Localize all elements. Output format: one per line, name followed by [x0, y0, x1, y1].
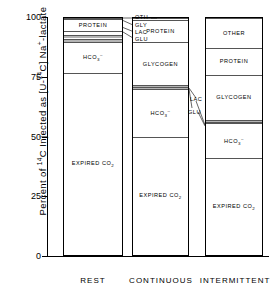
x-axis-line — [47, 256, 269, 257]
segment-rest-bicarbonate: HCO3– — [64, 42, 122, 73]
y-ticklabel-0: 0 — [0, 251, 41, 261]
stacked-bar-chart: Percent of 14C Injected as [U-14C] Na+-l… — [0, 0, 274, 287]
category-label-intermittent: INTERMITTENT — [196, 276, 274, 285]
y-axis-label-sup1: 14 — [36, 157, 43, 165]
bar-continuous[interactable]: EXPIRED CO2 HCO3– GLYCOGEN PROTEIN — [132, 17, 189, 256]
segment-intermittent-glu — [206, 122, 262, 124]
segment-rest-glu — [64, 39, 122, 41]
segment-label: HCO3– — [224, 136, 244, 146]
callout-lac-2: LAC — [190, 96, 202, 102]
segment-label: HCO3– — [151, 108, 171, 118]
segment-intermittent-other: OTHER — [206, 18, 262, 48]
segment-label: OTHER — [223, 30, 245, 37]
segment-label: PROTEIN — [220, 58, 248, 65]
segment-intermittent-expired-co2: EXPIRED CO2 — [206, 158, 262, 255]
segment-rest-other — [64, 18, 122, 19]
segment-rest-expired-co2: EXPIRED CO2 — [64, 73, 122, 255]
segment-rest-glycogen — [64, 31, 122, 35]
segment-label: EXPIRED CO2 — [213, 203, 255, 212]
callout-glu-2: GLU — [188, 109, 201, 115]
segment-label: PROTEIN — [79, 22, 107, 29]
y-axis-label-sup3: + — [36, 41, 43, 45]
segment-label: EXPIRED CO2 — [72, 160, 114, 169]
segment-label: GLYCOGEN — [143, 61, 178, 68]
category-label-rest: REST — [60, 276, 126, 285]
bar-rest[interactable]: EXPIRED CO2 HCO3– PROTEIN — [63, 17, 123, 256]
segment-label: HCO3– — [83, 52, 103, 62]
segment-label: GLYCOGEN — [216, 94, 251, 101]
y-ticklabel-100: 100 — [0, 12, 41, 22]
segment-continuous-expired-co2: EXPIRED CO2 — [133, 137, 188, 256]
y-tick-100 — [42, 17, 48, 18]
segment-intermittent-glycogen: GLYCOGEN — [206, 75, 262, 120]
callout-lac: LAC — [135, 29, 147, 35]
y-tick-0 — [42, 256, 48, 257]
segment-label: PROTEIN — [146, 28, 174, 35]
y-ticklabel-25: 25 — [0, 191, 41, 201]
callout-gly: GLY — [135, 22, 147, 28]
segment-label: EXPIRED CO2 — [139, 192, 181, 201]
category-label-continuous: CONTINUOUS — [126, 276, 196, 285]
bar-intermittent[interactable]: EXPIRED CO2 HCO3– GLYCOGEN PROTEIN OTHER — [205, 17, 263, 256]
y-tick-25 — [42, 196, 48, 197]
segment-intermittent-protein: PROTEIN — [206, 48, 262, 75]
segment-intermittent-bicarbonate: HCO3– — [206, 123, 262, 157]
segment-intermittent-lac — [206, 120, 262, 122]
segment-continuous-glycogen: GLYCOGEN — [133, 42, 188, 86]
segment-rest-lac — [64, 35, 122, 39]
y-tick-75 — [42, 77, 48, 78]
y-ticklabel-75: 75 — [0, 72, 41, 82]
y-ticklabel-50: 50 — [0, 132, 41, 142]
segment-continuous-lac — [133, 85, 188, 87]
segment-continuous-glu — [133, 87, 188, 89]
callout-oth: OTH — [135, 14, 148, 20]
segment-continuous-bicarbonate: HCO3– — [133, 89, 188, 136]
callout-glu: GLU — [135, 36, 148, 42]
y-tick-50 — [42, 137, 48, 138]
segment-rest-protein: PROTEIN — [64, 19, 122, 31]
